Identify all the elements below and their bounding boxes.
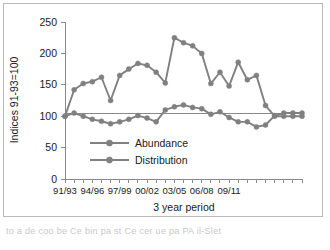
data-point-abundance xyxy=(254,73,259,78)
data-point-distribution xyxy=(126,117,131,122)
data-point-abundance xyxy=(135,61,140,66)
data-point-distribution xyxy=(145,116,150,121)
data-point-abundance xyxy=(217,70,222,75)
y-tick-label: 250 xyxy=(39,16,57,28)
data-point-distribution xyxy=(245,119,250,124)
chart-figure: 050100150200250 91/9394/9697/9900/0203/0… xyxy=(0,0,330,250)
chart-legend: Abundance Distribution xyxy=(90,137,188,166)
line-chart: 050100150200250 91/9394/9697/9900/0203/0… xyxy=(4,4,322,216)
data-point-distribution xyxy=(90,117,95,122)
x-tick-label: 94/96 xyxy=(80,185,104,196)
data-point-distribution xyxy=(154,119,159,124)
y-tick-label: 50 xyxy=(45,141,57,153)
data-point-distribution xyxy=(81,114,86,119)
data-point-abundance xyxy=(99,75,104,80)
data-point-abundance xyxy=(145,63,150,68)
x-tick-label: 91/93 xyxy=(53,185,77,196)
x-tick-label: 03/05 xyxy=(162,185,186,196)
x-tick-label: 06/08 xyxy=(190,185,214,196)
data-point-distribution xyxy=(163,107,168,112)
data-point-abundance xyxy=(190,43,195,48)
data-point-distribution xyxy=(236,119,241,124)
data-point-distribution xyxy=(300,111,305,116)
data-point-abundance xyxy=(199,51,204,56)
data-point-abundance xyxy=(163,80,168,85)
chart-frame: 050100150200250 91/9394/9697/9900/0203/0… xyxy=(3,3,323,217)
data-point-abundance xyxy=(227,84,232,89)
data-point-distribution xyxy=(99,119,104,124)
data-point-distribution xyxy=(217,109,222,114)
data-point-distribution xyxy=(199,106,204,111)
data-point-distribution xyxy=(254,124,259,129)
y-tick-label: 100 xyxy=(39,110,57,122)
data-point-abundance xyxy=(181,40,186,45)
y-axis-title: Indices 91-93=100 xyxy=(8,56,20,143)
legend-label-abundance: Abundance xyxy=(135,137,188,149)
y-axis-ticks: 050100150200250 xyxy=(39,16,65,185)
legend-marker-distribution xyxy=(106,157,112,163)
data-point-abundance xyxy=(72,87,77,92)
data-point-distribution xyxy=(135,113,140,118)
data-point-distribution xyxy=(281,111,286,116)
y-tick-label: 200 xyxy=(39,47,57,59)
data-point-distribution xyxy=(117,119,122,124)
x-tick-label: 09/11 xyxy=(218,185,241,196)
data-point-abundance xyxy=(154,70,159,75)
data-point-distribution xyxy=(63,114,68,119)
data-point-distribution xyxy=(108,121,113,126)
caption-strip: to a de coo be Ce bin pa st Ce cer ue pa… xyxy=(6,226,324,242)
data-point-distribution xyxy=(290,111,295,116)
x-axis-title: 3 year period xyxy=(153,201,214,213)
data-point-abundance xyxy=(208,81,213,86)
series-layer xyxy=(63,35,305,129)
caption-text: to a de coo be Ce bin pa st Ce cer ue pa… xyxy=(6,226,324,236)
x-tick-label: 00/02 xyxy=(135,185,159,196)
data-point-distribution xyxy=(208,112,213,117)
legend-marker-abundance xyxy=(106,140,112,146)
data-point-abundance xyxy=(126,67,131,72)
x-axis-ticks: 91/9394/9697/9900/0203/0506/0809/11 xyxy=(53,179,302,196)
legend-label-distribution: Distribution xyxy=(135,154,188,166)
data-point-distribution xyxy=(181,102,186,107)
data-point-distribution xyxy=(272,113,277,118)
data-point-abundance xyxy=(81,81,86,86)
data-point-distribution xyxy=(263,122,268,127)
y-tick-label: 0 xyxy=(51,173,57,185)
data-point-abundance xyxy=(263,103,268,108)
data-point-abundance xyxy=(236,60,241,65)
data-point-distribution xyxy=(190,105,195,110)
data-point-distribution xyxy=(227,115,232,120)
data-point-abundance xyxy=(172,35,177,40)
data-point-abundance xyxy=(117,73,122,78)
data-point-distribution xyxy=(172,104,177,109)
data-point-distribution xyxy=(72,111,77,116)
y-tick-label: 150 xyxy=(39,78,57,90)
data-point-abundance xyxy=(108,98,113,103)
x-tick-label: 97/99 xyxy=(108,185,132,196)
data-point-abundance xyxy=(245,77,250,82)
data-point-abundance xyxy=(90,79,95,84)
